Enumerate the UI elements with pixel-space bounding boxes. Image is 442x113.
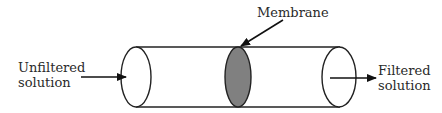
membrane-pointer-arrow bbox=[241, 20, 283, 46]
inlet-label-line1: Unfiltered bbox=[18, 60, 85, 75]
outlet-label-line2: solution bbox=[378, 78, 431, 93]
outlet-label-line1: Filtered bbox=[378, 63, 430, 78]
inlet-label-line2: solution bbox=[18, 75, 71, 90]
membrane-label: Membrane bbox=[257, 5, 329, 20]
filtration-diagram: Unfiltered solution Membrane Filtered so… bbox=[0, 0, 442, 113]
outlet-end-ellipse bbox=[322, 47, 356, 107]
membrane-disc bbox=[225, 47, 251, 107]
